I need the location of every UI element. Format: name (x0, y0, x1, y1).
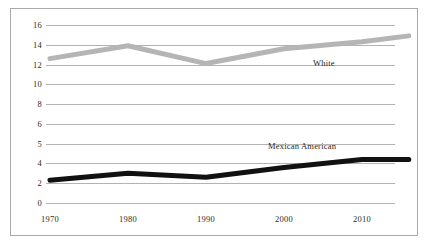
chart-container: 16 14 12 10 8 6 5 4 2 0 1970 1980 1990 2… (0, 0, 431, 246)
chart-frame (10, 8, 418, 236)
